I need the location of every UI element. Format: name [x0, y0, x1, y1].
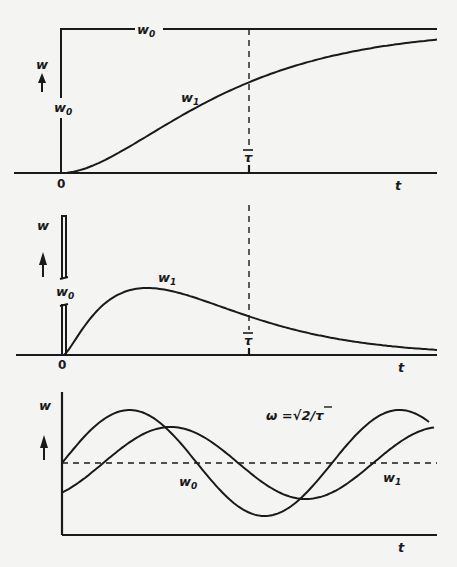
omega-equation: ω =√2/τ — [266, 408, 324, 423]
t-axis-label: t — [398, 360, 405, 375]
impulse-bar-bottom — [60, 304, 68, 355]
y-axis-label: w — [36, 57, 49, 72]
y-axis-label: w — [39, 398, 52, 413]
w0-label-top: w0 — [137, 22, 155, 39]
w0-step-line — [61, 29, 135, 173]
impulse-bar-top — [60, 216, 68, 279]
panel-impulse: w0 w w1 τ 0 t — [16, 205, 437, 375]
w1-label: w1 — [383, 470, 401, 487]
arrow-head-icon — [39, 252, 47, 265]
y-axis-label: w — [37, 218, 50, 233]
w1-label: w1 — [158, 270, 176, 287]
w0-label-axis: w0 — [54, 100, 72, 117]
w0-label: w0 — [179, 474, 197, 491]
panel-step: w0 w0 w w1 τ 0 t — [14, 22, 437, 193]
w1-label: w1 — [181, 90, 199, 107]
t-axis-label: t — [395, 178, 402, 193]
panel-sinusoid: w w0 w1 ω =√2/τ t — [39, 392, 437, 555]
origin-label: 0 — [57, 177, 65, 191]
tau-label: τ — [244, 333, 253, 348]
tau-label: τ — [244, 150, 253, 165]
t-axis-label: t — [398, 540, 405, 555]
origin-label: 0 — [58, 358, 66, 372]
figure: w0 w0 w w1 τ 0 t w0 w w1 τ 0 t — [0, 0, 457, 567]
arrow-head-icon — [38, 73, 46, 83]
w0-label: w0 — [56, 284, 74, 301]
arrow-head-icon — [40, 435, 48, 448]
